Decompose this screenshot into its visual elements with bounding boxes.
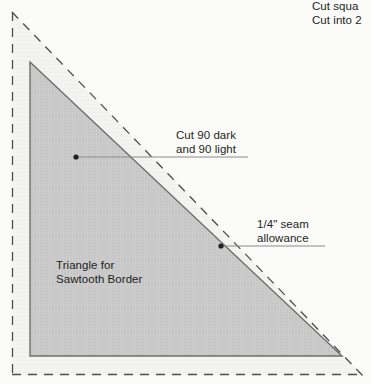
cut-square-note: Cut squa Cut into 2: [312, 0, 362, 27]
cut-counts-dot: [73, 154, 78, 159]
cut-square-note-line1: Cut squa: [312, 0, 362, 13]
cut-counts-label: Cut 90 dark and 90 light: [176, 128, 236, 156]
seam-allowance-label-line2: allowance: [257, 231, 309, 245]
triangle-name-label: Triangle for Sawtooth Border: [56, 258, 142, 286]
cut-counts-label-line2: and 90 light: [176, 142, 236, 156]
triangle-name-label-line1: Triangle for: [56, 258, 142, 272]
seam-allowance-label: 1/4" seam allowance: [257, 217, 309, 245]
cut-counts-label-line1: Cut 90 dark: [176, 128, 236, 142]
seam-allowance-dot: [218, 243, 223, 248]
quilting-pattern-diagram: Cut squa Cut into 2 Cut 90 dark and 90 l…: [0, 0, 371, 384]
triangle-name-label-line2: Sawtooth Border: [56, 272, 142, 286]
sawtooth-triangle-shape: [30, 62, 342, 356]
diagram-canvas: [0, 0, 371, 384]
seam-allowance-label-line1: 1/4" seam: [257, 217, 309, 231]
cut-square-note-line2: Cut into 2: [312, 13, 362, 27]
